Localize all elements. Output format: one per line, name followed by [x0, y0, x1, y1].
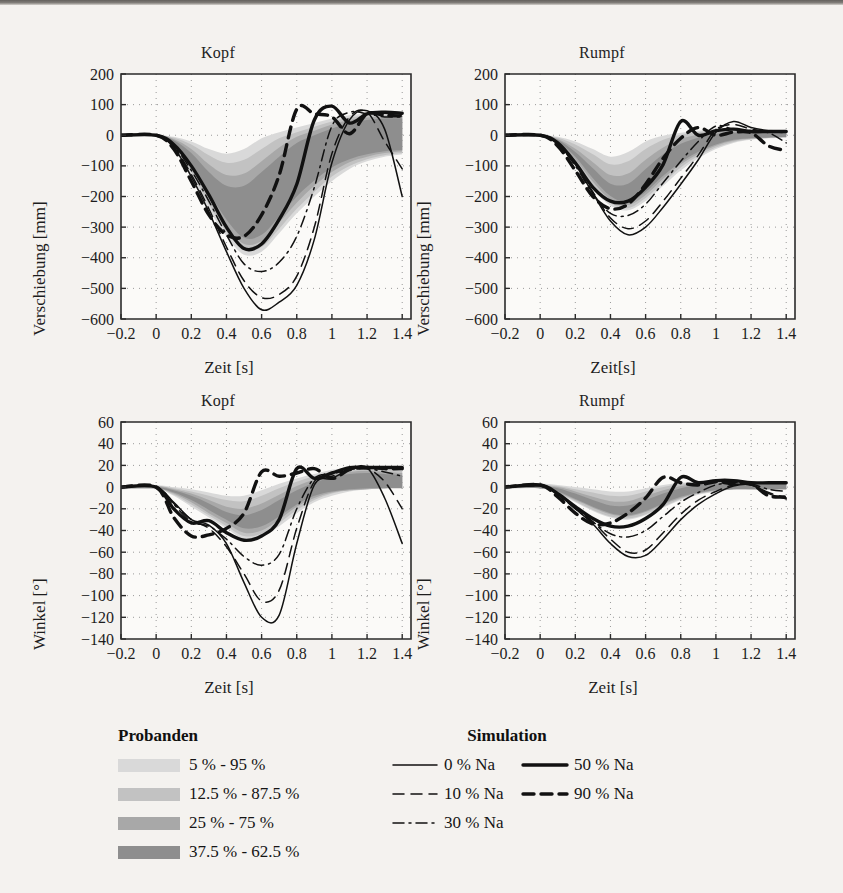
legend-simulation-label: 10 % Na	[444, 784, 503, 803]
svg-text:0.6: 0.6	[636, 645, 656, 662]
svg-text:40: 40	[98, 435, 114, 452]
svg-text:−0.2: −0.2	[106, 325, 135, 342]
svg-text:−400: −400	[465, 249, 498, 266]
svg-text:−120: −120	[81, 609, 114, 626]
svg-text:−80: −80	[89, 565, 114, 582]
svg-text:0: 0	[536, 645, 544, 662]
legend-probanden-item: 25 % - 75 %	[118, 808, 299, 837]
svg-text:1.2: 1.2	[741, 645, 761, 662]
svg-text:−200: −200	[465, 188, 498, 205]
corridor-swatch	[118, 759, 180, 772]
legend-simulation-item: 30 % Na	[392, 808, 522, 837]
svg-text:−100: −100	[81, 157, 114, 174]
svg-text:20: 20	[482, 457, 498, 474]
legend-probanden-label: 25 % - 75 %	[189, 813, 274, 832]
svg-text:−100: −100	[465, 587, 498, 604]
legend-simulation-item: 0 % Na	[392, 750, 522, 779]
svg-text:−500: −500	[465, 280, 498, 297]
legend-probanden-item: 37.5 % - 62.5 %	[118, 837, 299, 866]
svg-text:1: 1	[712, 645, 720, 662]
svg-text:0.2: 0.2	[181, 645, 201, 662]
svg-text:0: 0	[106, 127, 114, 144]
panel-rumpf-verschiebung: Rumpf Verschiebung [mm] 2001000−100−200−…	[402, 44, 802, 384]
legend-probanden: Probanden 5 % - 95 %12.5 % - 87.5 %25 % …	[118, 726, 299, 866]
panel-title: Kopf	[18, 44, 418, 62]
legend-probanden-label: 12.5 % - 87.5 %	[189, 784, 299, 803]
plot-area: 6040200−20−40−60−80−100−120−140−0.200.20…	[18, 414, 418, 686]
svg-text:0.8: 0.8	[287, 325, 307, 342]
svg-text:−0.2: −0.2	[106, 645, 135, 662]
svg-text:−60: −60	[473, 544, 498, 561]
plot-area: 2001000−100−200−300−400−500−600−0.200.20…	[402, 66, 802, 366]
svg-text:0.8: 0.8	[671, 325, 691, 342]
legend-probanden-rows: 5 % - 95 %12.5 % - 87.5 %25 % - 75 %37.5…	[118, 750, 299, 866]
legend-simulation-label: 0 % Na	[444, 755, 495, 774]
svg-text:100: 100	[474, 96, 498, 113]
svg-text:1.4: 1.4	[776, 645, 796, 662]
legend-simulation-label: 90 % Na	[574, 784, 633, 803]
svg-text:−0.2: −0.2	[490, 325, 519, 342]
svg-text:−200: −200	[81, 188, 114, 205]
svg-text:0.4: 0.4	[600, 325, 620, 342]
panel-x-axis-label: Zeit [s]	[64, 358, 394, 378]
line-style-key-icon	[392, 759, 438, 771]
panel-title: Rumpf	[402, 44, 802, 62]
svg-text:60: 60	[98, 414, 114, 431]
svg-text:−20: −20	[473, 500, 498, 517]
svg-text:1.2: 1.2	[741, 325, 761, 342]
corridor-swatch	[118, 788, 180, 801]
svg-text:0.8: 0.8	[671, 645, 691, 662]
figure-legend: Probanden 5 % - 95 %12.5 % - 87.5 %25 % …	[0, 718, 843, 893]
svg-text:0: 0	[106, 479, 114, 496]
svg-text:0: 0	[490, 479, 498, 496]
plot-area: 6040200−20−40−60−80−100−120−140−0.200.20…	[402, 414, 802, 686]
legend-simulation-title: Simulation	[392, 726, 622, 746]
svg-text:−0.2: −0.2	[490, 645, 519, 662]
svg-text:1: 1	[328, 325, 336, 342]
corridor-swatch	[118, 846, 180, 859]
legend-simulation-label: 50 % Na	[574, 755, 633, 774]
corridor-swatch	[118, 817, 180, 830]
legend-simulation: Simulation 0 % Na10 % Na30 % Na 50 % Na9…	[392, 726, 633, 837]
svg-text:0.2: 0.2	[181, 325, 201, 342]
figure-container: Kopf Verschiebung [mm] 2001000−100−200−3…	[0, 0, 843, 893]
svg-text:−500: −500	[81, 280, 114, 297]
panel-title: Kopf	[18, 392, 418, 410]
svg-text:1.4: 1.4	[776, 325, 796, 342]
legend-probanden-item: 5 % - 95 %	[118, 750, 299, 779]
svg-text:−120: −120	[465, 609, 498, 626]
panel-x-axis-label: Zeit[s]	[448, 358, 778, 378]
line-style-key-icon	[522, 788, 568, 800]
svg-text:0.2: 0.2	[565, 325, 585, 342]
svg-text:−400: −400	[81, 249, 114, 266]
svg-text:0.6: 0.6	[252, 645, 272, 662]
legend-probanden-label: 37.5 % - 62.5 %	[189, 842, 299, 861]
svg-text:0.4: 0.4	[600, 645, 620, 662]
svg-text:−40: −40	[89, 522, 114, 539]
svg-text:1: 1	[328, 645, 336, 662]
line-style-key-icon	[392, 817, 438, 829]
legend-simulation-column-right: 50 % Na90 % Na	[522, 750, 633, 837]
legend-simulation-item: 90 % Na	[522, 779, 633, 808]
svg-text:1.2: 1.2	[357, 645, 377, 662]
svg-text:20: 20	[98, 457, 114, 474]
svg-text:0.8: 0.8	[287, 645, 307, 662]
svg-text:100: 100	[90, 96, 114, 113]
plot-area: 2001000−100−200−300−400−500−600−0.200.20…	[18, 66, 418, 366]
legend-probanden-item: 12.5 % - 87.5 %	[118, 779, 299, 808]
svg-text:−300: −300	[81, 219, 114, 236]
svg-text:0.4: 0.4	[216, 325, 236, 342]
svg-text:200: 200	[90, 66, 114, 83]
svg-text:0.6: 0.6	[252, 325, 272, 342]
svg-text:1.2: 1.2	[357, 325, 377, 342]
svg-text:−20: −20	[89, 500, 114, 517]
svg-text:0: 0	[536, 325, 544, 342]
panel-title: Rumpf	[402, 392, 802, 410]
svg-text:−100: −100	[465, 157, 498, 174]
legend-probanden-title: Probanden	[118, 726, 299, 746]
svg-text:0: 0	[490, 127, 498, 144]
svg-text:0.4: 0.4	[216, 645, 236, 662]
legend-simulation-item: 50 % Na	[522, 750, 633, 779]
svg-text:60: 60	[482, 414, 498, 431]
panel-x-axis-label: Zeit [s]	[448, 678, 778, 698]
